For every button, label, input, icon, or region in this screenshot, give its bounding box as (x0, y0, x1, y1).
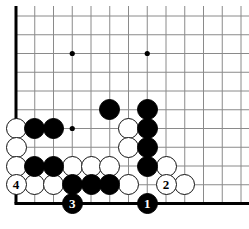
star-point (145, 51, 150, 56)
numbered-move-4: 4 (6, 174, 27, 195)
star-point (70, 126, 75, 131)
numbered-move-1: 1 (137, 193, 158, 214)
go-board-diagram: 1234 (0, 0, 249, 229)
white-stone (6, 137, 27, 158)
numbered-move-2: 2 (156, 174, 177, 195)
black-stone (43, 118, 64, 139)
black-stone (137, 118, 158, 139)
black-stone (137, 137, 158, 158)
board-grid (0, 0, 249, 229)
board-surface: 1234 (0, 0, 249, 229)
white-stone (118, 137, 139, 158)
star-point (70, 51, 75, 56)
black-stone (43, 156, 64, 177)
white-stone (118, 118, 139, 139)
numbered-move-3: 3 (62, 193, 83, 214)
black-stone (137, 156, 158, 177)
